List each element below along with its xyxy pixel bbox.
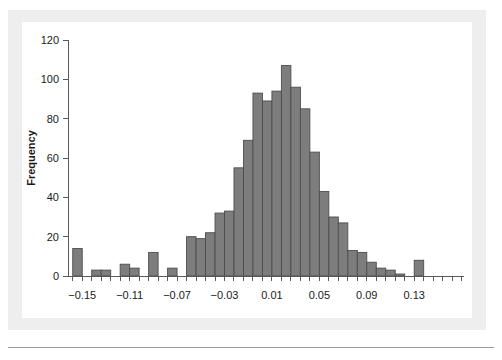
x-tick-label: 0.05 [309,289,330,301]
bars-group [73,66,424,276]
y-tick-label: 60 [47,152,59,164]
histogram-bar [130,268,139,276]
histogram-bar [196,239,205,276]
y-tick-label: 0 [53,270,59,282]
histogram-bar [281,66,290,276]
histogram-bar [272,91,281,276]
figure-root: 020406080100120Frequency−0.15−0.11−0.07−… [0,0,502,360]
y-axis-title: Frequency [25,129,37,186]
bottom-divider-rule [8,347,494,348]
histogram-bar [376,268,385,276]
y-tick-label: 20 [47,231,59,243]
x-tick-label: −0.03 [211,289,239,301]
histogram-chart: 020406080100120Frequency−0.15−0.11−0.07−… [22,22,472,318]
histogram-bar [253,93,262,276]
histogram-bar [262,101,271,276]
histogram-bar [149,252,158,276]
histogram-bar [206,233,215,276]
histogram-bar [414,260,423,276]
histogram-bar [319,191,328,276]
histogram-bar [386,270,395,276]
x-tick-label: −0.11 [116,289,143,301]
histogram-bar [300,109,309,276]
histogram-bar [367,262,376,276]
histogram-bar [357,252,366,276]
histogram-bar [92,270,101,276]
x-axis-minor-ticks [73,276,462,281]
histogram-bar [101,270,110,276]
histogram-bar [225,211,234,276]
histogram-bar [329,217,338,276]
histogram-bar [168,268,177,276]
histogram-svg: 020406080100120Frequency−0.15−0.11−0.07−… [22,22,472,318]
x-tick-label: −0.15 [68,289,96,301]
x-tick-label: 0.13 [403,289,424,301]
y-tick-label: 80 [47,113,59,125]
y-axis-ticks: 020406080100120 [41,34,68,282]
histogram-bar [215,213,224,276]
plot-panel: 020406080100120Frequency−0.15−0.11−0.07−… [22,22,472,318]
x-axis-labels: −0.15−0.11−0.07−0.030.010.050.090.13 [68,289,425,301]
histogram-bar [310,152,319,276]
histogram-bar [187,237,196,276]
histogram-bar [243,140,252,276]
y-tick-label: 100 [41,73,59,85]
histogram-bar [291,87,300,276]
histogram-bar [338,223,347,276]
y-tick-label: 40 [47,191,59,203]
y-tick-label: 120 [41,34,59,46]
histogram-bar [348,250,357,276]
x-tick-label: −0.07 [163,289,191,301]
histogram-bar [73,248,82,276]
histogram-bar [120,264,129,276]
x-tick-label: 0.09 [356,289,377,301]
histogram-bar [234,168,243,276]
x-tick-label: 0.01 [261,289,282,301]
